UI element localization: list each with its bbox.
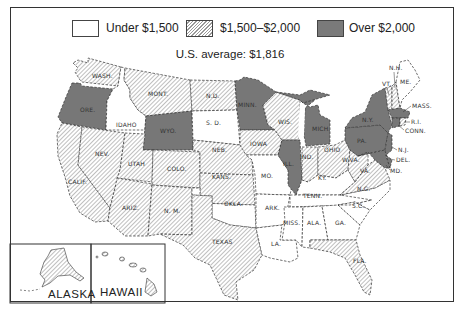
label-sd: S. D. — [206, 119, 221, 126]
label-va: VA. — [360, 167, 370, 174]
state-conn — [392, 118, 400, 128]
label-wyo: WYO. — [160, 127, 176, 134]
state-ny — [345, 88, 392, 133]
label-texas: TEXAS — [211, 238, 232, 245]
label-tenn: TENN. — [302, 192, 322, 199]
label-nh: N.H. — [389, 64, 403, 71]
label-wis: WIS. — [278, 118, 292, 125]
label-neb: NEB. — [212, 146, 227, 153]
label-nc: N.C. — [357, 185, 370, 192]
label-ariz: ARIZ. — [122, 204, 139, 211]
label-idaho: IDAHO — [116, 121, 137, 128]
label-miss: MISS. — [283, 219, 300, 226]
label-nm: N. M. — [164, 207, 180, 214]
label-nd: N.D. — [206, 92, 220, 99]
label-ohio: OHIO — [324, 146, 341, 153]
label-ky: KY. — [318, 174, 327, 181]
label-nev: NEV. — [95, 150, 109, 157]
label-me: ME. — [400, 78, 411, 85]
label-pa: PA. — [357, 137, 367, 144]
label-vt: VT. — [382, 80, 392, 87]
label-ri: R.I. — [411, 118, 421, 125]
label-mass: MASS. — [412, 102, 432, 109]
label-la: LA. — [271, 240, 281, 247]
label-colo: COLO. — [167, 165, 186, 172]
hawaii-label: HAWAII — [100, 286, 143, 298]
label-ala: ALA. — [307, 219, 321, 226]
label-minn: MINN. — [238, 101, 257, 108]
label-ind: IND. — [300, 153, 314, 160]
label-ga: GA. — [335, 219, 346, 226]
label-mo: MO. — [261, 172, 273, 179]
label-sc: S.C. — [352, 202, 365, 209]
label-ore: ORE. — [80, 106, 95, 113]
label-ny: N.Y. — [362, 116, 374, 123]
label-fla: FLA. — [353, 257, 367, 264]
label-okla: OKLA. — [224, 200, 243, 207]
label-del: DEL. — [396, 156, 410, 163]
label-conn: CONN. — [405, 127, 426, 134]
label-mich: MICH. — [312, 125, 330, 132]
label-ark: ARK. — [265, 204, 280, 211]
state-alaska — [40, 248, 84, 287]
label-wva: W.VA. — [342, 156, 360, 163]
label-iowa: IOWA — [250, 140, 268, 147]
label-kans: KANS. — [212, 173, 231, 180]
us-map: WASH. ORE. IDAHO MONT. WYO. CALIF. NEV. … — [0, 0, 460, 311]
state-fla — [310, 240, 372, 295]
label-calif: CALIF. — [68, 178, 87, 185]
alaska-label: ALASKA — [48, 288, 96, 300]
label-wash: WASH. — [92, 72, 113, 79]
label-utah: UTAH — [128, 160, 145, 167]
label-nj: N.J. — [398, 146, 409, 154]
state-sd — [192, 110, 240, 145]
label-mont: MONT. — [148, 90, 168, 97]
label-md: MD. — [390, 167, 402, 174]
label-ill: ILL. — [283, 160, 294, 167]
